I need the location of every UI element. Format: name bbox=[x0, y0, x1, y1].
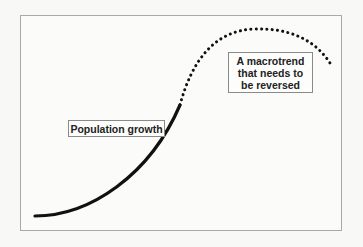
macrotrend-text-line3: be reversed bbox=[229, 79, 312, 91]
growth-curve bbox=[0, 0, 363, 247]
population-growth-text: Population growth bbox=[70, 123, 162, 135]
macrotrend-text-line1: A macrotrend bbox=[229, 55, 312, 67]
macrotrend-text-line2: that needs to bbox=[229, 67, 312, 79]
macrotrend-label: A macrotrend that needs to be reversed bbox=[228, 52, 313, 93]
population-growth-label: Population growth bbox=[68, 120, 165, 137]
